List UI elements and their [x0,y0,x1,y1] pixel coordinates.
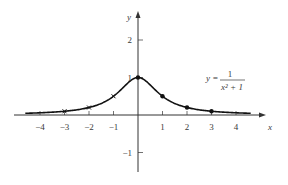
x-tick-label: 4 [234,122,239,132]
x-tick-label: −4 [35,122,45,132]
y-tick-label: −1 [122,148,132,158]
function-graph: −4−3−2−11234−112 x y y = 1 x² + 1 [0,0,288,185]
dot-marker-icon [160,94,164,98]
x-axis-arrow-icon [259,113,266,118]
x-tick-label: −3 [60,122,70,132]
x-axis-label: x [267,122,272,132]
x-tick-label: 2 [185,122,190,132]
equation-lhs: y = [205,73,218,83]
dot-marker-icon [185,105,189,109]
y-tick-label: 1 [128,73,133,83]
y-tick-label: 2 [128,35,133,45]
x-marker-icon [112,94,116,98]
x-tick-label: 1 [160,122,165,132]
x-tick-label: −1 [109,122,119,132]
dot-marker-icon [209,109,213,113]
y-axis-arrow-icon [136,11,141,18]
equation-denominator: x² + 1 [220,82,243,92]
tick-labels: −4−3−2−11234−112 [35,35,239,158]
equation-label: y = 1 x² + 1 [205,69,245,92]
dot-marker-icon [136,75,140,79]
y-axis-label: y [126,12,131,22]
equation-numerator: 1 [228,69,233,79]
x-tick-label: 3 [209,122,214,132]
x-tick-label: −2 [84,122,94,132]
